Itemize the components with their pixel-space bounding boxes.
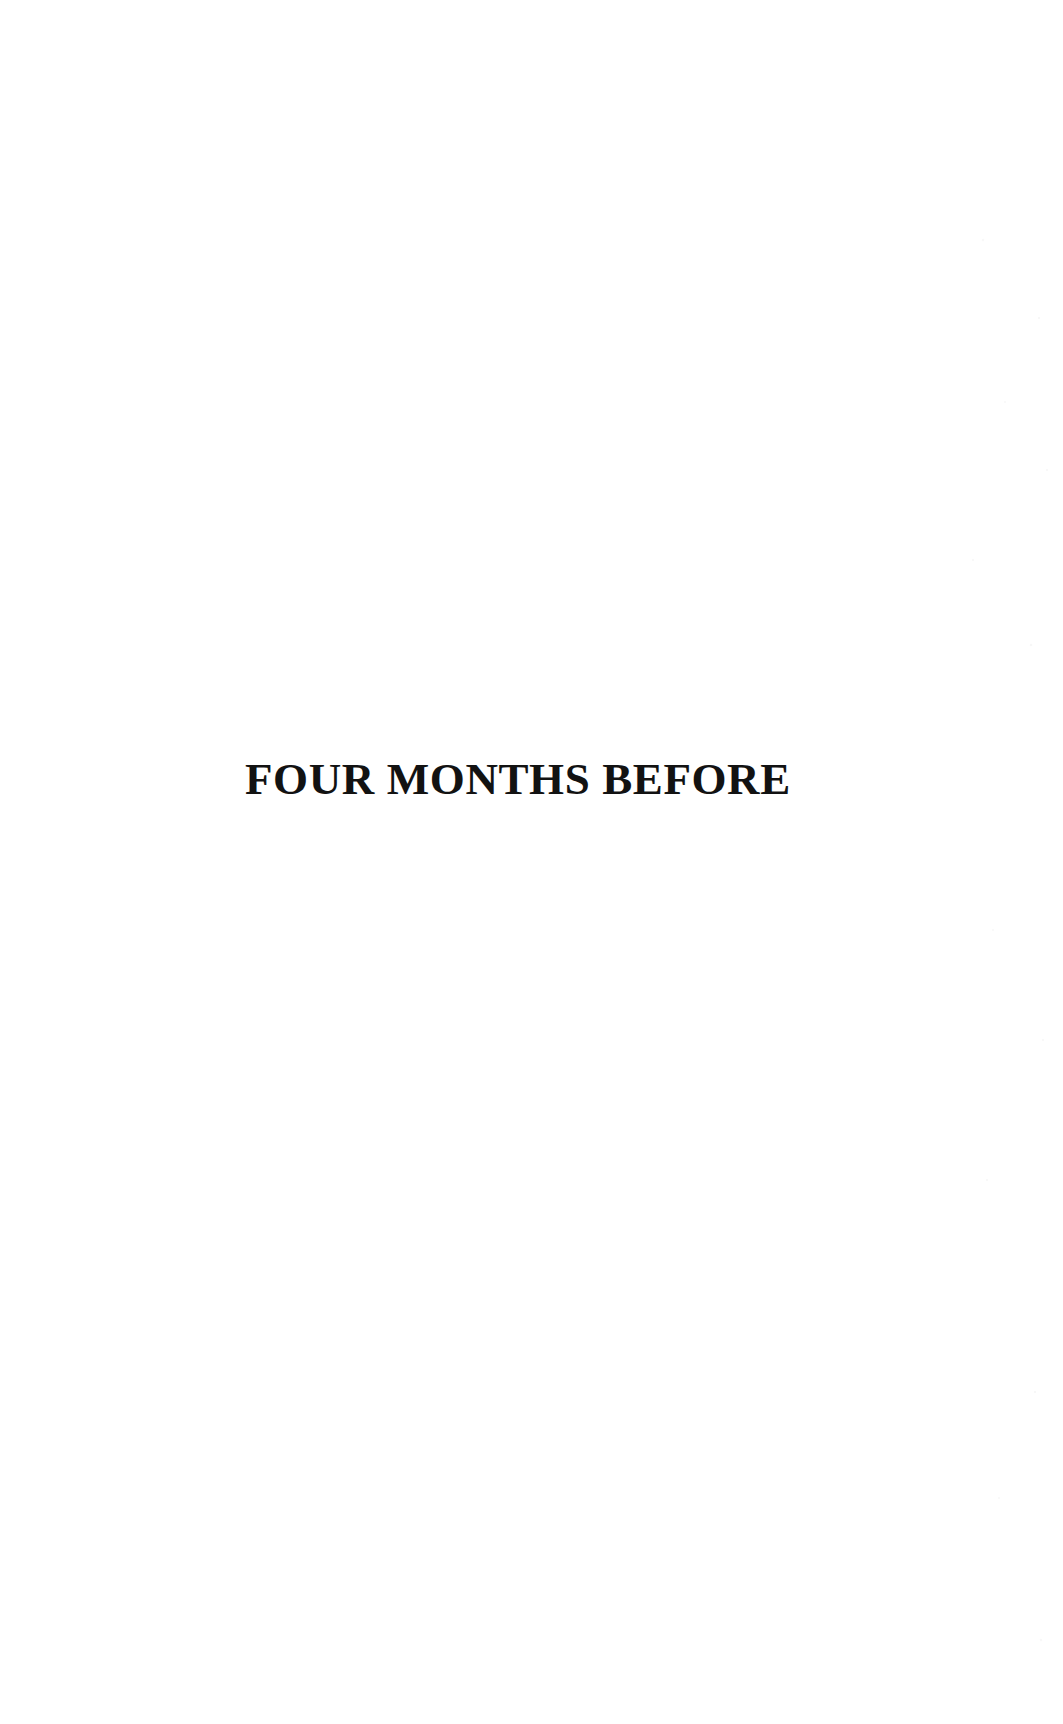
section-title: FOUR MONTHS BEFORE (245, 757, 741, 802)
page-text-block: FOUR MONTHS BEFORE (0, 0, 1063, 1724)
book-page: FOUR MONTHS BEFORE (0, 0, 1063, 1724)
